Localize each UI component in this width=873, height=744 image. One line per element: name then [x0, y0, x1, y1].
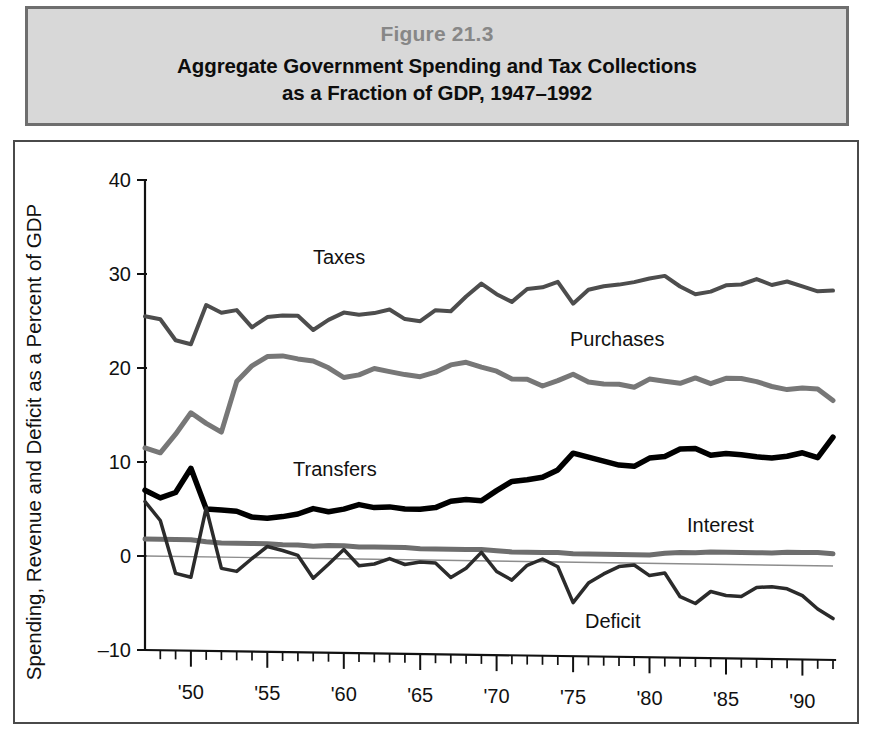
y-tick-label: 20	[109, 357, 131, 379]
line-chart: Spending, Revenue and Deficit as a Perce…	[15, 142, 857, 722]
x-axis-line	[145, 650, 835, 660]
series-annotations: Taxes Purchases Transfers Interest Defic…	[293, 246, 754, 632]
chart-panel: Spending, Revenue and Deficit as a Perce…	[13, 140, 859, 724]
page-title: Aggregate Government Spending and Tax Co…	[28, 52, 846, 106]
y-tick-label: 40	[109, 169, 131, 191]
figure-number: Figure 21.3	[28, 22, 846, 46]
y-tick-label: 10	[109, 451, 131, 473]
page-bottom-edge	[0, 736, 873, 744]
x-tick-label: '90	[789, 690, 815, 712]
x-tick-label: '50	[178, 681, 204, 703]
series-line-interest	[145, 539, 833, 555]
figure-page: Figure 21.3 Aggregate Government Spendin…	[0, 0, 873, 744]
data-series-group	[145, 276, 833, 619]
y-axis-title: Spending, Revenue and Deficit as a Perce…	[22, 204, 45, 680]
series-label-purchases: Purchases	[570, 328, 665, 350]
x-axis-tick-labels: '50 '55 '60 '65 '70 '75 '80 '85 '90	[178, 681, 816, 712]
y-tick-label: –10	[98, 639, 131, 661]
series-label-taxes: Taxes	[313, 246, 365, 268]
figure-title-line-2: as a Fraction of GDP, 1947–1992	[28, 79, 846, 106]
series-line-taxes	[145, 276, 833, 344]
x-tick-label: '55	[254, 682, 280, 704]
y-tick-label: 30	[109, 263, 131, 285]
series-label-interest: Interest	[687, 514, 754, 536]
x-tick-label: '85	[713, 688, 739, 710]
series-line-transfers	[145, 437, 833, 518]
series-label-transfers: Transfers	[293, 458, 377, 480]
x-tick-label: '70	[484, 685, 510, 707]
y-axis-tick-labels: 40 30 20 10 0 –10	[98, 169, 131, 661]
figure-title-panel: Figure 21.3 Aggregate Government Spendin…	[25, 6, 849, 126]
series-line-purchases	[145, 356, 833, 453]
x-tick-label: '75	[560, 686, 586, 708]
x-tick-label: '65	[407, 684, 433, 706]
figure-title-line-1: Aggregate Government Spending and Tax Co…	[28, 52, 846, 79]
x-tick-label: '80	[636, 687, 662, 709]
x-tick-label: '60	[331, 683, 357, 705]
series-label-deficit: Deficit	[585, 610, 641, 632]
y-tick-label: 0	[120, 545, 131, 567]
